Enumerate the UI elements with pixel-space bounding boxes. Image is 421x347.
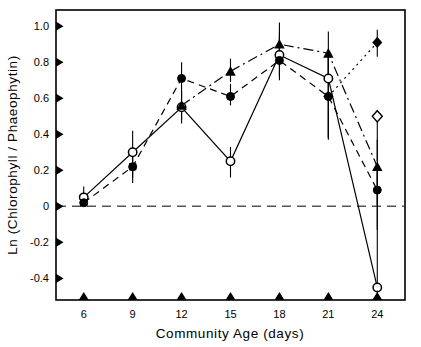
data-point-filled-circle-series xyxy=(373,186,381,194)
x-tick-label: 12 xyxy=(175,308,187,320)
y-tick-label: 0.8 xyxy=(34,56,49,68)
y-tick-label: 0.4 xyxy=(34,128,49,140)
y-tick-label: 0.6 xyxy=(34,92,49,104)
data-point-open-circle-series xyxy=(373,283,381,291)
data-point-filled-circle-series xyxy=(275,56,283,64)
y-tick-label: 0.2 xyxy=(34,164,49,176)
y-tick-label: 0 xyxy=(43,200,49,212)
y-axis-title: Ln (Chlorophyll / Phaeophytin) xyxy=(5,55,20,255)
data-point-open-circle-series xyxy=(324,74,332,82)
x-tick-label: 21 xyxy=(322,308,334,320)
x-axis-title: Community Age (days) xyxy=(156,326,305,341)
x-tick-label: 15 xyxy=(224,308,236,320)
y-tick-label: -0.2 xyxy=(30,236,49,248)
y-tick-label: -0.4 xyxy=(30,272,49,284)
data-point-filled-circle-series xyxy=(178,74,186,82)
data-point-filled-circle-series xyxy=(129,163,136,170)
data-point-filled-circle-series xyxy=(80,199,87,206)
data-point-filled-circle-series xyxy=(227,92,235,100)
x-tick-label: 18 xyxy=(273,308,285,320)
x-tick-label: 6 xyxy=(81,308,87,320)
data-point-open-circle-series xyxy=(128,148,136,156)
y-tick-label: 1.0 xyxy=(34,20,49,32)
scatter-line-chart: 1.00.80.60.40.20-0.2-0.4 691215182124 Co… xyxy=(0,0,421,347)
chart-root: 1.00.80.60.40.20-0.2-0.4 691215182124 Co… xyxy=(0,0,421,347)
x-tick-label: 24 xyxy=(371,308,383,320)
data-point-open-circle-series xyxy=(226,157,234,165)
x-tick-label: 9 xyxy=(130,308,136,320)
